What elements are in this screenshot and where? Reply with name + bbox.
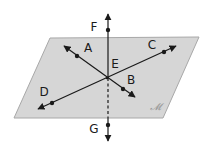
point-b-dot: [121, 87, 125, 91]
label-c: C: [148, 38, 156, 52]
label-g: G: [89, 122, 98, 136]
point-g-dot: [106, 123, 110, 127]
label-e: E: [111, 57, 119, 71]
point-e-intersection: [106, 77, 109, 80]
plane-diagram: A B C D E F G 𝓜: [0, 0, 212, 154]
point-d-dot: [50, 101, 54, 105]
label-b: B: [127, 73, 135, 87]
point-a-dot: [75, 54, 79, 58]
label-f: F: [91, 20, 98, 34]
point-c-dot: [162, 50, 166, 54]
point-f-dot: [106, 28, 110, 32]
label-d: D: [39, 85, 48, 99]
label-a: A: [84, 41, 93, 55]
